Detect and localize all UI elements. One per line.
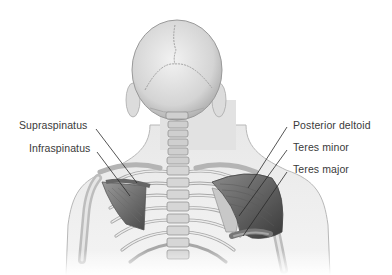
label-teres-minor: Teres minor <box>293 141 349 153</box>
anatomy-illustration <box>0 0 392 275</box>
label-infraspinatus: Infraspinatus <box>29 142 90 154</box>
skull <box>132 20 222 120</box>
anatomy-diagram: Supraspinatus Infraspinatus Posterior de… <box>0 0 392 275</box>
label-posterior-deltoid: Posterior deltoid <box>293 119 371 131</box>
label-supraspinatus: Supraspinatus <box>19 119 87 131</box>
label-teres-major: Teres major <box>293 163 349 175</box>
bottom-fade <box>0 250 392 275</box>
